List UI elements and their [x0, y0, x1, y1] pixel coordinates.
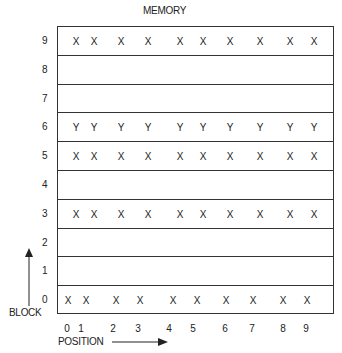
- memory-cell: X: [177, 151, 184, 162]
- memory-cell: X: [73, 209, 80, 220]
- memory-cell: X: [83, 295, 90, 306]
- memory-cell: X: [65, 295, 72, 306]
- position-label: 9: [303, 323, 309, 334]
- block-axis-label: BLOCK: [9, 307, 41, 318]
- memory-cell: X: [257, 36, 264, 47]
- block-row: [58, 85, 333, 114]
- memory-cell: Y: [73, 122, 80, 133]
- memory-cell: Y: [311, 122, 318, 133]
- position-label: 1: [78, 323, 84, 334]
- memory-cell: Y: [287, 122, 294, 133]
- memory-cell: X: [257, 209, 264, 220]
- memory-cell: X: [287, 36, 294, 47]
- memory-cell: X: [73, 36, 80, 47]
- memory-cell: X: [200, 36, 207, 47]
- block-label: 4: [42, 179, 48, 190]
- memory-cell: X: [177, 36, 184, 47]
- memory-cell: X: [177, 209, 184, 220]
- memory-cell: X: [170, 295, 177, 306]
- memory-cell: X: [91, 151, 98, 162]
- position-label: 0: [64, 323, 70, 334]
- memory-cell: X: [304, 295, 311, 306]
- memory-cell: X: [73, 151, 80, 162]
- memory-cell: X: [287, 151, 294, 162]
- memory-cell: X: [113, 295, 120, 306]
- memory-cell: Y: [118, 122, 125, 133]
- block-row: [58, 257, 333, 286]
- block-label: 3: [42, 208, 48, 219]
- memory-cell: X: [200, 209, 207, 220]
- memory-grid: XXXXXXXXXXYYYYYYYYYYXXXXXXXXXXXXXXXXXXXX…: [57, 26, 334, 314]
- position-label: 5: [190, 323, 196, 334]
- position-label: 4: [166, 323, 172, 334]
- block-row: [58, 171, 333, 200]
- position-label: 7: [249, 323, 255, 334]
- block-label: 7: [42, 93, 48, 104]
- memory-cell: X: [145, 36, 152, 47]
- memory-cell: X: [118, 151, 125, 162]
- block-row: YYYYYYYYYY: [58, 113, 333, 142]
- memory-cell: X: [227, 36, 234, 47]
- position-axis-label: POSITION: [58, 336, 103, 347]
- memory-cell: X: [194, 295, 201, 306]
- block-label: 9: [42, 35, 48, 46]
- block-label: 0: [42, 294, 48, 305]
- block-axis-arrow-icon: [24, 248, 34, 306]
- block-row: [58, 56, 333, 85]
- memory-cell: X: [311, 36, 318, 47]
- memory-cell: X: [311, 209, 318, 220]
- memory-cell: X: [227, 209, 234, 220]
- block-label: 6: [42, 121, 48, 132]
- memory-cell: X: [145, 209, 152, 220]
- block-row: XXXXXXXXXX: [58, 200, 333, 229]
- memory-cell: X: [91, 36, 98, 47]
- memory-cell: X: [280, 295, 287, 306]
- position-label: 2: [110, 323, 116, 334]
- memory-cell: X: [227, 151, 234, 162]
- memory-cell: Y: [91, 122, 98, 133]
- memory-cell: X: [257, 151, 264, 162]
- memory-cell: Y: [145, 122, 152, 133]
- memory-cell: X: [137, 295, 144, 306]
- block-label: 8: [42, 64, 48, 75]
- memory-cell: X: [311, 151, 318, 162]
- memory-cell: Y: [227, 122, 234, 133]
- memory-cell: X: [287, 209, 294, 220]
- position-axis-arrow-icon: [112, 337, 168, 347]
- block-label: 2: [42, 237, 48, 248]
- memory-cell: X: [91, 209, 98, 220]
- position-label: 3: [135, 323, 141, 334]
- memory-cell: Y: [257, 122, 264, 133]
- memory-cell: Y: [177, 122, 184, 133]
- memory-cell: Y: [200, 122, 207, 133]
- position-label: 6: [222, 323, 228, 334]
- block-row: XXXXXXXXXX: [58, 27, 333, 56]
- memory-cell: X: [118, 36, 125, 47]
- block-row: XXXXXXXXXX: [58, 286, 333, 315]
- memory-cell: X: [145, 151, 152, 162]
- memory-cell: X: [250, 295, 257, 306]
- block-label: 5: [42, 150, 48, 161]
- block-label: 1: [42, 265, 48, 276]
- memory-cell: X: [223, 295, 230, 306]
- block-row: [58, 229, 333, 258]
- diagram-title: MEMORY: [143, 5, 186, 16]
- position-label: 8: [280, 323, 286, 334]
- memory-cell: X: [200, 151, 207, 162]
- block-row: XXXXXXXXXX: [58, 142, 333, 171]
- memory-cell: X: [118, 209, 125, 220]
